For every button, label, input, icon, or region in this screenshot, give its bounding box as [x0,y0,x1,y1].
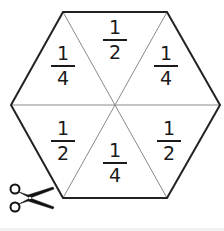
denominator: 4 [51,70,75,87]
numerator: 1 [154,45,178,62]
numerator: 1 [157,120,181,137]
fraction-bottom: 1 4 [103,142,127,184]
bottom-edge-strip [0,228,224,231]
denominator: 4 [154,70,178,87]
fraction-upper-left: 1 4 [51,45,75,87]
hexagon-fraction-diagram: 1 2 1 4 1 2 1 4 1 2 1 4 [0,0,224,231]
scissors-icon [11,185,55,212]
denominator: 2 [51,145,75,162]
fraction-top: 1 2 [103,19,127,61]
fraction-lower-left: 1 2 [51,120,75,162]
denominator: 2 [157,145,181,162]
numerator: 1 [103,142,127,159]
numerator: 1 [51,120,75,137]
denominator: 2 [103,44,127,61]
numerator: 1 [103,19,127,36]
numerator: 1 [51,45,75,62]
fraction-upper-right: 1 4 [154,45,178,87]
denominator: 4 [103,167,127,184]
fraction-lower-right: 1 2 [157,120,181,162]
